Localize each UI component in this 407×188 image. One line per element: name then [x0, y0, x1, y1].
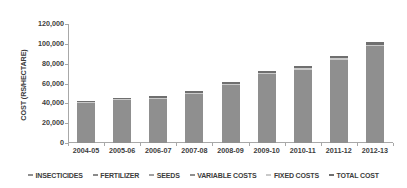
- legend-swatch-icon: [149, 174, 154, 177]
- x-axis-tick-label: 2012-13: [357, 146, 393, 156]
- legend-item-label: FIXED COSTS: [274, 172, 319, 179]
- legend-swatch-icon: [329, 174, 334, 177]
- bar[interactable]: [185, 91, 203, 143]
- x-axis-tick-label: 2006-07: [140, 146, 176, 156]
- y-axis-tick-labels: 020,00040,00060,00080,000100,000120,000: [20, 0, 64, 188]
- legend-item-label: INSECTICIDES: [36, 172, 83, 179]
- legend-item-label: TOTAL COST: [336, 172, 378, 179]
- bar-segment-variable-costs: [185, 94, 203, 143]
- x-axis-tick-mark: [393, 143, 394, 146]
- x-axis-tick-labels: 2004-052005-062006-072007-082008-092009-…: [68, 146, 393, 158]
- x-axis-tick-label: 2004-05: [68, 146, 104, 156]
- bar[interactable]: [77, 101, 95, 143]
- legend-item-label: FERTILIZER: [100, 172, 139, 179]
- bar-segment-variable-costs: [258, 74, 276, 143]
- legend-item[interactable]: TOTAL COST: [329, 172, 379, 179]
- legend-item-label: VARIABLE COSTS: [197, 172, 256, 179]
- legend-swatch-icon: [28, 174, 33, 177]
- y-axis-tick-label: 60,000: [22, 80, 64, 88]
- y-axis-tick-mark: [65, 103, 68, 104]
- y-axis-tick-label: 100,000: [22, 40, 64, 48]
- bar[interactable]: [258, 71, 276, 143]
- chart-legend: INSECTICIDESFERTILIZERSEEDSVARIABLE COST…: [0, 167, 407, 183]
- y-axis-tick-mark: [65, 64, 68, 65]
- legend-swatch-icon: [190, 174, 195, 177]
- y-axis-tick-label: 20,000: [22, 119, 64, 127]
- legend-item[interactable]: INSECTICIDES: [28, 172, 83, 179]
- bar-segment-variable-costs: [113, 100, 131, 143]
- legend-swatch-icon: [93, 174, 98, 177]
- y-axis-tick-mark: [65, 44, 68, 45]
- y-axis-tick-mark: [65, 24, 68, 25]
- y-axis-tick-mark: [65, 123, 68, 124]
- legend-item[interactable]: VARIABLE COSTS: [190, 172, 257, 179]
- bar-chart: COST (RS/HECTARE) 020,00040,00060,00080,…: [0, 0, 407, 188]
- bar[interactable]: [222, 82, 240, 143]
- x-axis-tick-label: 2007-08: [176, 146, 212, 156]
- x-axis-tick-label: 2005-06: [104, 146, 140, 156]
- legend-swatch-icon: [266, 174, 271, 177]
- y-axis-tick-label: 120,000: [22, 20, 64, 28]
- bar-segment-variable-costs: [77, 103, 95, 143]
- bar-segment-variable-costs: [149, 99, 167, 143]
- bar-segment-variable-costs: [294, 70, 312, 143]
- y-axis-tick-label: 40,000: [22, 99, 64, 107]
- bar[interactable]: [113, 98, 131, 143]
- x-axis-tick-label: 2010-11: [285, 146, 321, 156]
- bar[interactable]: [149, 96, 167, 143]
- y-axis-tick-mark: [65, 84, 68, 85]
- x-axis-tick-label: 2008-09: [213, 146, 249, 156]
- legend-item[interactable]: SEEDS: [149, 172, 179, 179]
- bar-series: [68, 24, 393, 143]
- legend-item-label: SEEDS: [157, 172, 180, 179]
- bar-segment-variable-costs: [222, 85, 240, 143]
- bar[interactable]: [366, 42, 384, 143]
- x-axis-tick-label: 2011-12: [321, 146, 357, 156]
- legend-item[interactable]: FIXED COSTS: [266, 172, 319, 179]
- bar-segment-variable-costs: [366, 46, 384, 143]
- y-axis-tick-label: 80,000: [22, 60, 64, 68]
- plot-area: [68, 24, 393, 143]
- bar-segment-variable-costs: [330, 60, 348, 143]
- bar[interactable]: [330, 56, 348, 143]
- y-axis-tick-label: 0: [22, 139, 64, 147]
- bar[interactable]: [294, 66, 312, 143]
- x-axis-tick-label: 2009-10: [249, 146, 285, 156]
- legend-item[interactable]: FERTILIZER: [93, 172, 139, 179]
